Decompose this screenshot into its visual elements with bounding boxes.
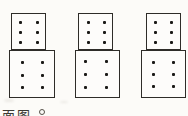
pip: [152, 61, 155, 64]
pip: [84, 73, 87, 76]
pip: [41, 74, 44, 77]
stacked-boxes-2-bottom-box: [75, 50, 120, 98]
pip: [84, 60, 87, 63]
pip: [172, 85, 175, 88]
caption-text-fragment: 面图: [2, 105, 32, 116]
pip: [105, 86, 108, 89]
pip: [172, 61, 175, 64]
pip: [19, 21, 22, 24]
pip: [36, 41, 39, 44]
scanned-figure-canvas: 面图: [0, 0, 188, 116]
pip: [152, 73, 155, 76]
pip: [36, 21, 39, 24]
stacked-boxes-1-top-box: [11, 13, 46, 50]
pip: [103, 41, 106, 44]
pip: [103, 21, 106, 24]
pip: [105, 60, 108, 63]
stacked-boxes-2-top-box: [78, 13, 113, 50]
pip: [87, 41, 90, 44]
pip: [21, 74, 24, 77]
stacked-boxes-3-bottom-box: [141, 50, 186, 98]
pip: [87, 31, 90, 34]
pip: [21, 61, 24, 64]
stacked-boxes-3-top-box: [146, 13, 181, 50]
pip: [103, 31, 106, 34]
pip: [170, 31, 173, 34]
pip: [36, 31, 39, 34]
pip: [19, 41, 22, 44]
pip: [154, 21, 157, 24]
pip: [87, 21, 90, 24]
scan-smudge: [60, 101, 68, 103]
caption-period-mark: [39, 109, 45, 115]
pip: [84, 86, 87, 89]
scan-smudge: [4, 99, 14, 102]
pip: [154, 31, 157, 34]
pip: [170, 41, 173, 44]
pip: [41, 61, 44, 64]
pip: [41, 86, 44, 89]
pip: [152, 85, 155, 88]
pip: [105, 73, 108, 76]
pip: [154, 41, 157, 44]
pip: [170, 21, 173, 24]
pip: [21, 86, 24, 89]
stacked-boxes-1-bottom-box: [9, 50, 55, 98]
pip: [19, 31, 22, 34]
pip: [172, 73, 175, 76]
